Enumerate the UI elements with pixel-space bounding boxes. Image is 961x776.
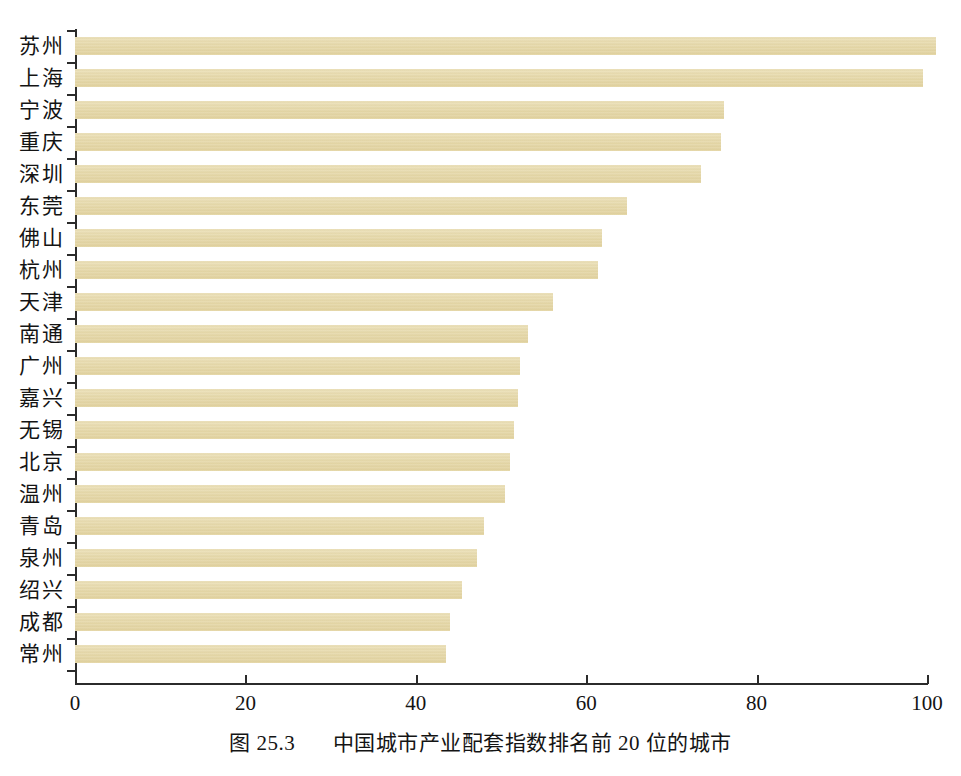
bar-深圳 bbox=[75, 165, 701, 183]
y-tick-mark bbox=[67, 94, 75, 96]
caption-number: 图 25.3 bbox=[229, 731, 295, 755]
bar-row: 成都 bbox=[75, 606, 927, 638]
bar-row: 温州 bbox=[75, 478, 927, 510]
bar-东莞 bbox=[75, 197, 627, 215]
bar-嘉兴 bbox=[75, 389, 518, 407]
bar-佛山 bbox=[75, 229, 602, 247]
bar-常州 bbox=[75, 645, 446, 663]
category-label-无锡: 无锡 bbox=[0, 414, 65, 446]
category-label-温州: 温州 bbox=[0, 478, 65, 510]
y-tick-mark bbox=[67, 318, 75, 320]
y-tick-mark bbox=[67, 222, 75, 224]
bar-苏州 bbox=[75, 37, 936, 55]
category-label-南通: 南通 bbox=[0, 318, 65, 350]
bar-宁波 bbox=[75, 101, 724, 119]
y-tick-mark bbox=[67, 510, 75, 512]
x-tick-mark bbox=[75, 675, 77, 684]
x-axis-line bbox=[75, 683, 928, 685]
bar-广州 bbox=[75, 357, 520, 375]
x-tick-label: 40 bbox=[405, 690, 426, 716]
category-label-青岛: 青岛 bbox=[0, 510, 65, 542]
y-tick-mark bbox=[67, 382, 75, 384]
bar-row: 东莞 bbox=[75, 190, 927, 222]
y-tick-mark bbox=[67, 574, 75, 576]
y-tick-mark bbox=[67, 30, 75, 32]
bar-row: 宁波 bbox=[75, 94, 927, 126]
bar-row: 深圳 bbox=[75, 158, 927, 190]
bar-row: 嘉兴 bbox=[75, 382, 927, 414]
x-tick-mark bbox=[757, 675, 759, 684]
category-label-杭州: 杭州 bbox=[0, 254, 65, 286]
x-tick-mark bbox=[927, 675, 929, 684]
category-label-常州: 常州 bbox=[0, 638, 65, 670]
y-tick-mark bbox=[67, 670, 75, 672]
bar-row: 常州 bbox=[75, 638, 927, 670]
y-tick-mark bbox=[67, 446, 75, 448]
bar-row: 泉州 bbox=[75, 542, 927, 574]
bar-row: 佛山 bbox=[75, 222, 927, 254]
bar-row: 南通 bbox=[75, 318, 927, 350]
x-tick-label: 100 bbox=[911, 690, 943, 716]
y-tick-mark bbox=[67, 638, 75, 640]
caption-text: 中国城市产业配套指数排名前 20 位的城市 bbox=[333, 731, 732, 755]
x-tick-label: 60 bbox=[576, 690, 597, 716]
category-label-成都: 成都 bbox=[0, 606, 65, 638]
y-tick-mark bbox=[67, 350, 75, 352]
bar-重庆 bbox=[75, 133, 721, 151]
y-tick-mark bbox=[67, 286, 75, 288]
bar-row: 青岛 bbox=[75, 510, 927, 542]
bar-上海 bbox=[75, 69, 923, 87]
figure-container: 苏州上海宁波重庆深圳东莞佛山杭州天津南通广州嘉兴无锡北京温州青岛泉州绍兴成都常州… bbox=[0, 0, 961, 776]
x-tick-mark bbox=[245, 675, 247, 684]
bar-row: 无锡 bbox=[75, 414, 927, 446]
y-tick-mark bbox=[67, 606, 75, 608]
x-tick-mark bbox=[586, 675, 588, 684]
y-tick-mark bbox=[67, 478, 75, 480]
bar-row: 杭州 bbox=[75, 254, 927, 286]
bar-北京 bbox=[75, 453, 510, 471]
category-label-天津: 天津 bbox=[0, 286, 65, 318]
category-label-绍兴: 绍兴 bbox=[0, 574, 65, 606]
figure-caption: 图 25.3 中国城市产业配套指数排名前 20 位的城市 bbox=[0, 728, 961, 758]
x-tick-mark bbox=[416, 675, 418, 684]
bar-绍兴 bbox=[75, 581, 462, 599]
bar-无锡 bbox=[75, 421, 514, 439]
category-label-宁波: 宁波 bbox=[0, 94, 65, 126]
bar-泉州 bbox=[75, 549, 477, 567]
category-label-泉州: 泉州 bbox=[0, 542, 65, 574]
category-label-佛山: 佛山 bbox=[0, 222, 65, 254]
x-tick-label: 80 bbox=[746, 690, 767, 716]
y-tick-mark bbox=[67, 62, 75, 64]
y-tick-mark bbox=[67, 414, 75, 416]
bar-row: 绍兴 bbox=[75, 574, 927, 606]
bar-成都 bbox=[75, 613, 450, 631]
bar-row: 重庆 bbox=[75, 126, 927, 158]
bar-天津 bbox=[75, 293, 553, 311]
category-label-东莞: 东莞 bbox=[0, 190, 65, 222]
bar-杭州 bbox=[75, 261, 598, 279]
category-label-深圳: 深圳 bbox=[0, 158, 65, 190]
bar-row: 广州 bbox=[75, 350, 927, 382]
bar-南通 bbox=[75, 325, 528, 343]
plot-area: 苏州上海宁波重庆深圳东莞佛山杭州天津南通广州嘉兴无锡北京温州青岛泉州绍兴成都常州 bbox=[75, 30, 927, 682]
category-label-嘉兴: 嘉兴 bbox=[0, 382, 65, 414]
category-label-重庆: 重庆 bbox=[0, 126, 65, 158]
x-tick-label: 0 bbox=[70, 690, 81, 716]
y-tick-mark bbox=[67, 254, 75, 256]
y-tick-mark bbox=[67, 126, 75, 128]
bar-row: 北京 bbox=[75, 446, 927, 478]
x-tick-label: 20 bbox=[235, 690, 256, 716]
category-label-苏州: 苏州 bbox=[0, 30, 65, 62]
bar-青岛 bbox=[75, 517, 484, 535]
category-label-北京: 北京 bbox=[0, 446, 65, 478]
bar-温州 bbox=[75, 485, 505, 503]
category-label-上海: 上海 bbox=[0, 62, 65, 94]
y-tick-mark bbox=[67, 190, 75, 192]
y-tick-mark bbox=[67, 542, 75, 544]
category-label-广州: 广州 bbox=[0, 350, 65, 382]
bar-row: 苏州 bbox=[75, 30, 927, 62]
bar-row: 天津 bbox=[75, 286, 927, 318]
y-tick-mark bbox=[67, 158, 75, 160]
bar-row: 上海 bbox=[75, 62, 927, 94]
